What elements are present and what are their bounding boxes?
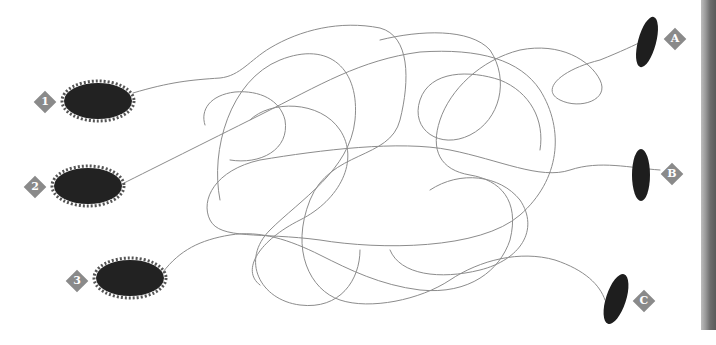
page-edge-band — [701, 0, 716, 330]
label-a: A — [664, 28, 686, 50]
cocoon-b[interactable] — [632, 149, 650, 201]
characters — [0, 0, 716, 345]
caterpillar-2[interactable] — [52, 166, 124, 206]
label-c: C — [633, 290, 655, 312]
maze-canvas: 1 2 3 A B C — [0, 0, 716, 345]
label-1: 1 — [34, 91, 56, 113]
label-2: 2 — [24, 176, 46, 198]
label-b: B — [661, 163, 683, 185]
caterpillar-1[interactable] — [62, 81, 134, 121]
cocoon-a[interactable] — [632, 15, 663, 70]
cocoon-c[interactable] — [598, 271, 633, 327]
caterpillar-3[interactable] — [94, 258, 166, 298]
label-3: 3 — [66, 270, 88, 292]
